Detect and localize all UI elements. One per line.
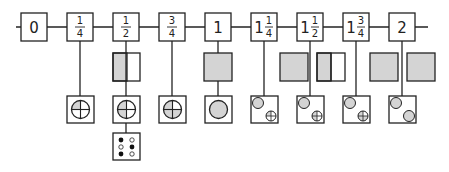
value-box-three-quarters: 3 4 <box>159 13 185 41</box>
svg-text:1: 1 <box>77 15 83 26</box>
circle-one-half-icon <box>118 101 136 119</box>
svg-text:1: 1 <box>254 19 264 37</box>
svg-text:1: 1 <box>312 15 318 26</box>
square-full-shaded <box>280 53 308 81</box>
dot-array-icon <box>113 133 140 160</box>
svg-text:2: 2 <box>312 28 318 39</box>
circle-three-quarters-icon <box>164 101 182 119</box>
value-box-0: 0 <box>21 13 47 41</box>
svg-text:1: 1 <box>300 19 310 37</box>
value-box-one-and-half: 1 1 2 <box>297 13 323 41</box>
value-box-one-and-quarter: 1 1 4 <box>251 13 277 41</box>
svg-text:1: 1 <box>123 15 129 26</box>
fraction-number-line-diagram: 0 1 4 1 2 3 4 1 1 1 4 1 1 2 1 3 <box>0 0 449 172</box>
square-one-and-half-shaded <box>317 53 345 81</box>
svg-text:4: 4 <box>358 28 364 39</box>
value-box-1: 1 <box>205 13 231 41</box>
value-box-one-half: 1 2 <box>113 13 139 41</box>
value-box-one-quarter: 1 4 <box>67 13 93 41</box>
area-models <box>113 53 435 81</box>
svg-text:3: 3 <box>358 15 364 26</box>
svg-text:3: 3 <box>169 15 175 26</box>
square-full-shaded <box>370 53 398 81</box>
square-half-shaded <box>113 53 140 81</box>
svg-text:4: 4 <box>266 28 272 39</box>
square-full-shaded <box>204 53 232 81</box>
circle-whole-icon <box>210 101 228 119</box>
circle-one-quarter-icon <box>72 101 90 119</box>
square-full-shaded <box>407 53 435 81</box>
svg-text:1: 1 <box>266 15 272 26</box>
svg-text:2: 2 <box>123 28 129 39</box>
svg-text:4: 4 <box>77 28 83 39</box>
value-box-one-and-three-quarters: 1 3 4 <box>343 13 369 41</box>
svg-text:1: 1 <box>213 19 223 37</box>
svg-text:0: 0 <box>29 19 39 37</box>
svg-text:4: 4 <box>169 28 175 39</box>
svg-text:2: 2 <box>397 19 407 37</box>
svg-text:1: 1 <box>346 19 356 37</box>
value-box-2: 2 <box>389 13 415 41</box>
